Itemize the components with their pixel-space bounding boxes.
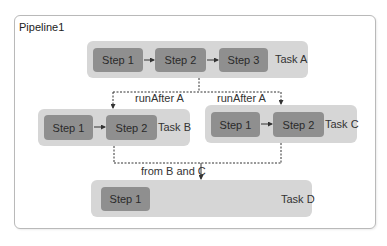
task-c-label: Task C: [325, 118, 359, 130]
task-a-step-2: Step 2: [155, 48, 206, 72]
task-d-label: Task D: [281, 193, 315, 205]
task-a-label: Task A: [275, 53, 307, 65]
task-c-step-2: Step 2: [273, 112, 324, 137]
task-d-step-1: Step 1: [101, 187, 150, 211]
task-b-step-2: Step 2: [106, 115, 157, 140]
edge-label-a-to-c: runAfter A: [217, 92, 266, 104]
task-b-label: Task B: [158, 121, 191, 133]
task-a-step-1: Step 1: [93, 48, 143, 72]
edge-label-bc-to-d: from B and C: [141, 165, 206, 177]
edge-label-a-to-b: runAfter A: [135, 92, 184, 104]
task-a-step-3: Step 3: [219, 48, 268, 72]
task-b-step-1: Step 1: [44, 115, 93, 140]
task-c-step-1: Step 1: [211, 112, 260, 137]
pipeline-title: Pipeline1: [19, 21, 64, 33]
